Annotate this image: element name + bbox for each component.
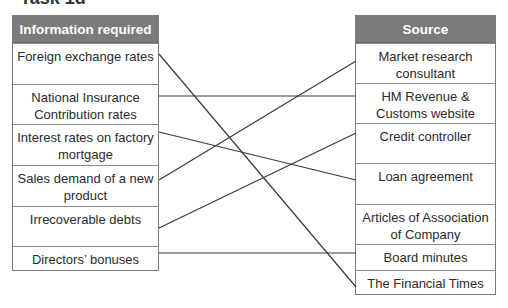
connector-line	[159, 54, 356, 287]
connector-line	[159, 132, 356, 180]
connector-line	[159, 133, 356, 228]
connector-line	[159, 61, 356, 180]
connector-lines	[0, 0, 508, 308]
